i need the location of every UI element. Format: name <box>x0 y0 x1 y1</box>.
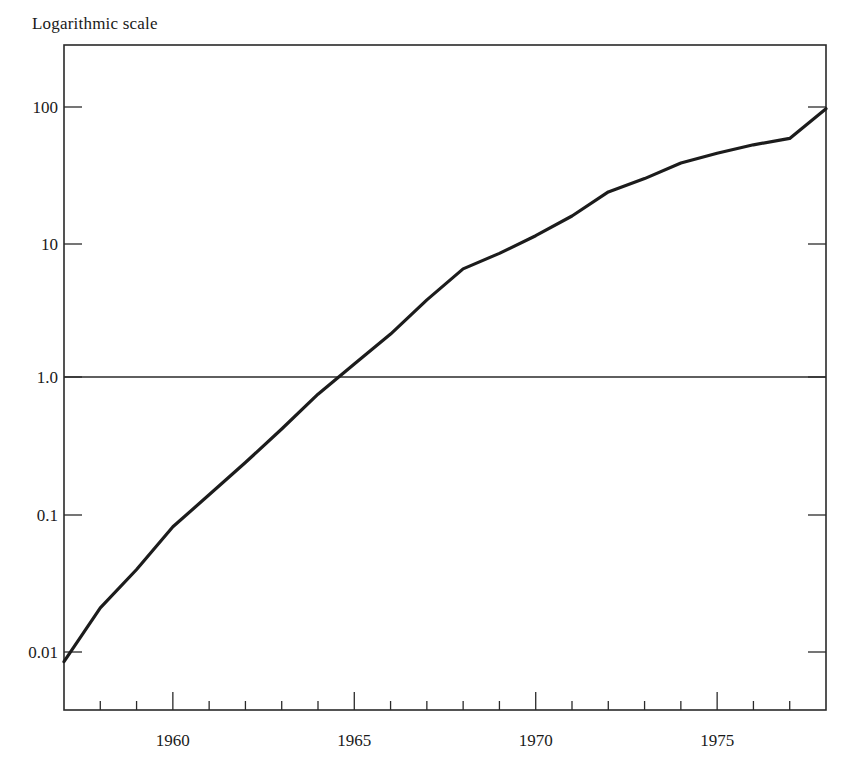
y-tick-label: 10 <box>41 235 58 254</box>
y-axis-ticks: 0.010.11.010100 <box>28 98 826 662</box>
line-chart: 0.010.11.010100 1960196519701975 <box>0 0 843 761</box>
x-axis-ticks: 1960196519701975 <box>100 692 789 750</box>
x-tick-label: 1960 <box>156 731 190 750</box>
x-tick-label: 1970 <box>519 731 553 750</box>
y-tick-label: 100 <box>33 98 59 117</box>
series-line <box>64 109 826 662</box>
x-tick-label: 1965 <box>337 731 371 750</box>
y-tick-label: 0.1 <box>37 506 58 525</box>
x-tick-label: 1975 <box>700 731 734 750</box>
data-series <box>64 109 826 662</box>
y-tick-label: 1.0 <box>37 368 58 387</box>
y-tick-label: 0.01 <box>28 643 58 662</box>
